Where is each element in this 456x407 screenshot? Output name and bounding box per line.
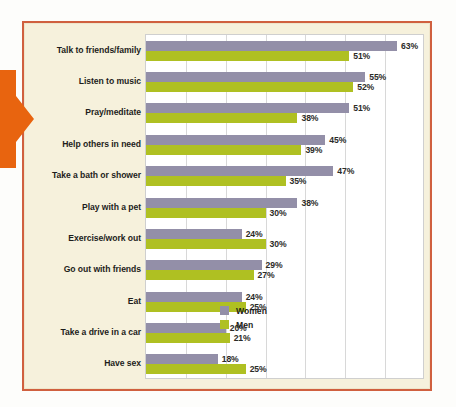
bar-men [146,145,301,155]
chart-card: Talk to friends/familyListen to musicPra… [22,21,432,391]
bar-value-label: 38% [301,113,318,123]
bar-value-label: 18% [222,354,239,364]
bar-men [146,333,230,343]
bar-value-label: 24% [246,292,263,302]
bar-women [146,198,297,208]
bar-value-label: 45% [329,135,346,145]
legend-label: Women [236,306,267,316]
category-label: Play with a pet [28,202,141,212]
legend-item[interactable]: Men [220,319,296,330]
bar-women [146,166,333,176]
bar-women [146,41,397,51]
orange-pointer-arrow [0,70,34,168]
legend-swatch [220,306,229,315]
bar-men [146,82,353,92]
category-label: Eat [28,296,141,306]
bar-value-label: 51% [353,103,370,113]
bar-value-label: 52% [357,82,374,92]
legend-item[interactable]: Women [220,305,296,316]
bar-men [146,270,254,280]
bar-value-label: 30% [270,208,287,218]
bar-women [146,292,242,302]
bar-value-label: 21% [234,333,251,343]
bar-women [146,72,365,82]
bar-value-label: 39% [305,145,322,155]
bar-men [146,51,349,61]
category-label: Have sex [28,358,141,368]
bar-men [146,364,246,374]
category-label: Pray/meditate [28,107,141,117]
bar-men [146,239,266,249]
category-label: Exercise/work out [28,233,141,243]
category-label: Talk to friends/family [28,45,141,55]
bar-women [146,354,218,364]
bar-value-label: 29% [266,260,283,270]
bar-value-label: 35% [290,176,307,186]
bar-women [146,323,226,333]
bar-men [146,113,297,123]
bar-value-label: 63% [401,41,418,51]
bar-men [146,208,266,218]
page-canvas: Talk to friends/familyListen to musicPra… [0,0,456,407]
category-labels: Talk to friends/familyListen to musicPra… [28,34,141,379]
gridline [385,35,386,378]
bar-value-label: 38% [301,198,318,208]
bar-value-label: 24% [246,229,263,239]
category-label: Take a drive in a car [28,327,141,337]
bar-women [146,229,242,239]
category-label: Help others in need [28,139,141,149]
bar-value-label: 25% [250,364,267,374]
bar-value-label: 51% [353,51,370,61]
chart-legend: WomenMen [220,305,296,333]
bar-women [146,260,262,270]
legend-label: Men [236,320,253,330]
bar-women [146,103,349,113]
category-label: Go out with friends [28,264,141,274]
category-label: Take a bath or shower [28,170,141,180]
legend-swatch [220,320,229,329]
bar-men [146,176,286,186]
category-label: Listen to music [28,76,141,86]
bar-women [146,135,325,145]
bar-value-label: 30% [270,239,287,249]
bar-value-label: 47% [337,166,354,176]
bar-value-label: 55% [369,72,386,82]
bar-value-label: 27% [258,270,275,280]
